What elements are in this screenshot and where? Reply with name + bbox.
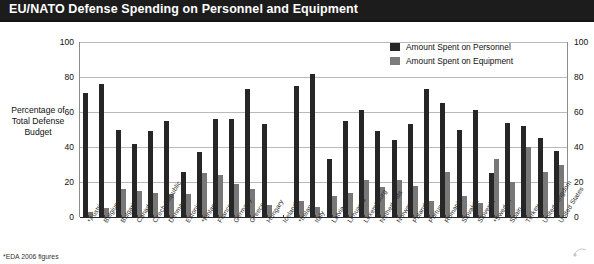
- y-tick-left-20: 20: [65, 177, 74, 187]
- y-tick-left-100: 100: [60, 37, 74, 47]
- y-tick-right-40: 40: [574, 142, 583, 152]
- x-axis-label: United States: [551, 218, 567, 262]
- x-axis-label: Latvia: [324, 218, 340, 262]
- bar-group: [210, 42, 226, 217]
- bar: [99, 84, 104, 217]
- bars-layer: [80, 42, 567, 217]
- x-axis-label: Italy: [307, 218, 323, 262]
- x-axis-label: Portugal: [421, 218, 437, 262]
- x-axis-label: Lithuania: [340, 218, 356, 262]
- y-tick-right-100: 100: [574, 37, 588, 47]
- y-tick-left-40: 40: [65, 142, 74, 152]
- y-axis-caption-line3: Budget: [2, 127, 74, 138]
- x-axis-label: Greece: [242, 218, 258, 262]
- x-axis-label: Estonia: [177, 218, 193, 262]
- bar-group: [356, 42, 372, 217]
- footnote: *EDA 2006 figures: [3, 253, 59, 260]
- bar-group: [194, 42, 210, 217]
- x-axis-label: Spain: [502, 218, 518, 262]
- corner-mark-icon: [572, 246, 588, 258]
- x-axis-label: Norway: [388, 218, 404, 262]
- y-tick-right-60: 60: [574, 107, 583, 117]
- bar: [526, 147, 531, 217]
- x-axis-label: Hungary: [259, 218, 275, 262]
- y-tick-left-80: 80: [65, 72, 74, 82]
- chart-page: EU/NATO Defense Spending on Personnel an…: [0, 0, 594, 264]
- bar-group: [259, 42, 275, 217]
- bar-group: [421, 42, 437, 217]
- x-axis-label: France: [210, 218, 226, 262]
- x-axis-label: United Kingdom: [535, 218, 551, 262]
- bar: [83, 93, 88, 217]
- bar-group: [242, 42, 258, 217]
- bar-group: [518, 42, 534, 217]
- bar-group: [291, 42, 307, 217]
- x-axis-label: Luxembourg: [356, 218, 372, 262]
- x-axis-label: Turkey: [518, 218, 534, 262]
- x-axis-label: *Finland: [194, 218, 210, 262]
- x-axis-label: Slovakia: [453, 218, 469, 262]
- bar-group: [80, 42, 96, 217]
- bar-group: [145, 42, 161, 217]
- y-tick-left-0: 0: [69, 212, 74, 222]
- x-axis-label: Germany: [226, 218, 242, 262]
- x-axis-label: Denmark: [161, 218, 177, 262]
- bar: [424, 89, 429, 217]
- x-axis-label: Iceland: [275, 218, 291, 262]
- bar: [310, 74, 315, 218]
- bar-group: [405, 42, 421, 217]
- bar: [294, 86, 299, 217]
- bar-group: [535, 42, 551, 217]
- bar-group: [453, 42, 469, 217]
- y-tick-left-60: 60: [65, 107, 74, 117]
- bar-group: [437, 42, 453, 217]
- bar-group: [470, 42, 486, 217]
- title-divider: [0, 20, 594, 22]
- x-axis-label: *Austria: [80, 218, 96, 262]
- bar-group: [502, 42, 518, 217]
- title-bar: EU/NATO Defense Spending on Personnel an…: [0, 0, 594, 20]
- x-axis-label: Romania: [437, 218, 453, 262]
- bar-group: [226, 42, 242, 217]
- x-axis-label: Bulgaria: [112, 218, 128, 262]
- x-axis-label: Slovenia: [470, 218, 486, 262]
- x-axis-label: Czech Republic: [145, 218, 161, 262]
- plot-area: 002020404060608080100100: [80, 42, 567, 217]
- y-axis-caption: Percentage of Total Defense Budget: [2, 105, 74, 138]
- bar-group: [112, 42, 128, 217]
- bar-group: [324, 42, 340, 217]
- bar-group: [129, 42, 145, 217]
- bar-group: [307, 42, 323, 217]
- y-tick-right-80: 80: [574, 72, 583, 82]
- x-axis-label: Poland: [405, 218, 421, 262]
- x-axis-label: *Ireland: [291, 218, 307, 262]
- bar-group: [96, 42, 112, 217]
- x-axis-label: *Sweden: [486, 218, 502, 262]
- x-axis-label: Netherlands: [372, 218, 388, 262]
- x-axis-labels: *AustriaBelgiumBulgariaCanadaCzech Repub…: [80, 218, 567, 262]
- bar-group: [275, 42, 291, 217]
- y-axis-caption-line2: Total Defense: [2, 116, 74, 127]
- bar-group: [486, 42, 502, 217]
- y-axis-caption-line1: Percentage of: [2, 105, 74, 116]
- x-axis-label: Belgium: [96, 218, 112, 262]
- bar-group: [177, 42, 193, 217]
- y-tick-right-0: 0: [574, 212, 579, 222]
- x-axis-label: Canada: [129, 218, 145, 262]
- page-title: EU/NATO Defense Spending on Personnel an…: [9, 2, 358, 16]
- bar-group: [340, 42, 356, 217]
